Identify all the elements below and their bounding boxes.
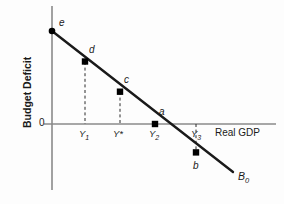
y-axis-title: Budget Deficit [22, 57, 33, 128]
x-axis-title: Real GDP [215, 128, 260, 138]
origin-label: 0 [39, 118, 45, 128]
point-label-c: c [124, 75, 129, 85]
x-tick-y1-sub: 1 [85, 134, 89, 141]
x-tick-label-ystar: Y* [113, 129, 123, 139]
point-label-a: a [159, 107, 165, 117]
x-tick-label-y3: Y3 [191, 129, 201, 141]
data-point-a [152, 121, 158, 127]
x-tick-label-y2: Y2 [149, 129, 159, 141]
x-tick-y3-sub: 3 [197, 134, 201, 141]
curve-label-main: B [238, 170, 245, 182]
data-point-c [117, 89, 123, 95]
budget-deficit-line [52, 31, 233, 172]
x-tick-label-y1: Y1 [79, 129, 89, 141]
data-point-b [193, 149, 199, 155]
point-label-e: e [59, 18, 65, 28]
budget-deficit-chart: Budget Deficit 0 Real GDP e d c a b Y1 Y… [0, 0, 284, 204]
curve-label-b0: B0 [238, 171, 249, 185]
data-point-e [49, 28, 56, 35]
data-point-d [82, 58, 88, 64]
point-label-b: b [193, 161, 199, 171]
x-tick-y2-sub: 2 [155, 134, 159, 141]
point-label-d: d [89, 45, 95, 55]
curve-label-sub: 0 [245, 176, 249, 185]
